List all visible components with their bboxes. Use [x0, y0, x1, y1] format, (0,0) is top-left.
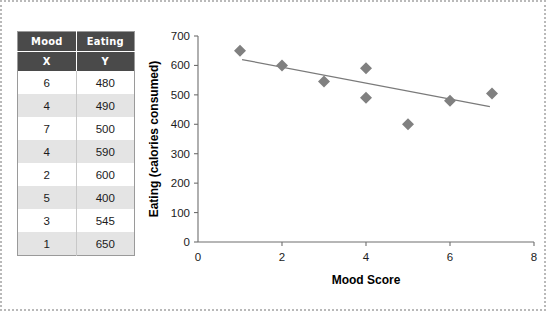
cell-eating: 590	[76, 140, 135, 163]
y-tick-label: 500	[171, 89, 190, 101]
table-row: 3545	[18, 209, 135, 232]
table-row: 1650	[18, 232, 135, 256]
table-row: 5400	[18, 186, 135, 209]
cell-eating: 490	[76, 94, 135, 117]
table-header-row-vars: X Y	[18, 52, 135, 72]
x-tick-label: 8	[531, 251, 537, 263]
x-tick-label: 0	[195, 251, 201, 263]
column-header-x: X	[18, 52, 77, 72]
table-header-row-group: Mood Eating	[18, 32, 135, 52]
data-point-marker	[402, 118, 414, 130]
column-header-eating: Eating	[76, 32, 135, 52]
ticks-group: 010020030040050060070002468	[171, 30, 537, 263]
data-table: Mood Eating X Y 648044907500459026005400…	[17, 31, 135, 256]
x-tick-label: 2	[279, 251, 285, 263]
data-point-marker	[234, 45, 246, 57]
table-row: 2600	[18, 163, 135, 186]
column-header-mood: Mood	[18, 32, 77, 52]
table-row: 4590	[18, 140, 135, 163]
x-tick-label: 6	[447, 251, 453, 263]
data-point-marker	[318, 76, 330, 88]
table-row: 7500	[18, 117, 135, 140]
data-point-marker	[444, 95, 456, 107]
y-tick-label: 300	[171, 148, 190, 160]
cell-eating: 650	[76, 232, 135, 256]
table-body: 64804490750045902600540035451650	[18, 71, 135, 256]
table-head: Mood Eating X Y	[18, 32, 135, 72]
data-point-marker	[276, 59, 288, 71]
cell-mood: 5	[18, 186, 77, 209]
cell-mood: 2	[18, 163, 77, 186]
cell-mood: 1	[18, 232, 77, 256]
column-header-y: Y	[76, 52, 135, 72]
cell-eating: 400	[76, 186, 135, 209]
figure-container: Mood Eating X Y 648044907500459026005400…	[0, 0, 546, 311]
chart-svg: 010020030040050060070002468 Mood Score E…	[142, 12, 542, 302]
data-points-group	[234, 45, 498, 131]
x-axis-title: Mood Score	[332, 273, 401, 287]
cell-eating: 600	[76, 163, 135, 186]
cell-mood: 3	[18, 209, 77, 232]
table-row: 6480	[18, 71, 135, 94]
data-point-marker	[360, 92, 372, 104]
y-tick-label: 100	[171, 207, 190, 219]
y-tick-label: 400	[171, 118, 190, 130]
scatter-plot: 010020030040050060070002468 Mood Score E…	[142, 12, 542, 302]
table-row: 4490	[18, 94, 135, 117]
y-tick-label: 700	[171, 30, 190, 42]
cell-eating: 480	[76, 71, 135, 94]
cell-mood: 7	[18, 117, 77, 140]
y-tick-label: 600	[171, 59, 190, 71]
cell-eating: 545	[76, 209, 135, 232]
y-tick-label: 0	[184, 236, 190, 248]
cell-eating: 500	[76, 117, 135, 140]
x-tick-label: 4	[363, 251, 370, 263]
data-point-marker	[360, 62, 372, 74]
y-axis-title: Eating (calories consumed)	[147, 61, 161, 218]
data-point-marker	[486, 87, 498, 99]
cell-mood: 4	[18, 94, 77, 117]
y-tick-label: 200	[171, 177, 190, 189]
cell-mood: 6	[18, 71, 77, 94]
cell-mood: 4	[18, 140, 77, 163]
